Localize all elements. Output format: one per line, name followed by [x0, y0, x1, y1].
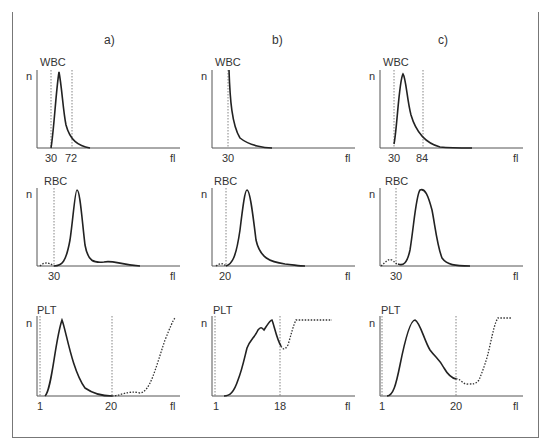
tick-label: 20: [105, 400, 117, 412]
dotted-curve: [456, 318, 512, 384]
plt-curve: [387, 320, 456, 396]
histogram-b-rbc: RBC n 20 fl: [201, 175, 355, 282]
tick-label: 20: [450, 400, 462, 412]
tick-label: 84: [416, 152, 428, 164]
title-rbc-a: RBC: [44, 175, 67, 187]
histogram-a-wbc: WBC n 30 72 fl: [26, 56, 180, 164]
title-plt-b: PLT: [213, 304, 233, 316]
tick-label: 30: [388, 152, 400, 164]
tick-label: 72: [65, 152, 77, 164]
rbc-curve: [398, 190, 470, 266]
wbc-curve: [229, 70, 272, 148]
histogram-b-plt: PLT n 1 18 fl: [201, 304, 355, 412]
histogram-c-rbc: RBC n 30 fl: [369, 175, 523, 282]
title-wbc-c: WBC: [383, 56, 409, 68]
histogram-c-wbc: WBC n 30 84 fl: [369, 56, 523, 164]
plt-curve: [224, 320, 281, 396]
rbc-curve: [54, 190, 140, 266]
axes: [212, 316, 355, 396]
y-label: n: [26, 317, 32, 329]
x-label: fl: [345, 152, 351, 164]
x-label: fl: [345, 400, 351, 412]
tick-label: 1: [379, 400, 385, 412]
y-label: n: [369, 70, 375, 82]
rbc-curve: [226, 190, 305, 266]
tick-label: 30: [48, 270, 60, 282]
dotted-curve: [112, 318, 175, 396]
x-label: fl: [170, 270, 176, 282]
histogram-figure: a) b) c) WBC n 30 72 fl RBC n 30 fl PLT …: [0, 0, 544, 440]
tick-label: 30: [45, 152, 57, 164]
axes: [37, 188, 180, 266]
axes: [37, 316, 180, 396]
y-label: n: [26, 70, 32, 82]
y-label: n: [26, 188, 32, 200]
tick-label: 20: [219, 270, 231, 282]
column-label-a: a): [104, 33, 115, 47]
histogram-c-plt: PLT n 1 20 fl: [369, 304, 523, 412]
tick-label: 1: [213, 400, 219, 412]
plt-curve: [45, 320, 112, 396]
axes: [212, 188, 355, 266]
column-label-b: b): [272, 33, 283, 47]
y-label: n: [201, 188, 207, 200]
title-plt-a: PLT: [37, 304, 57, 316]
histogram-b-wbc: WBC n 30 fl: [201, 56, 355, 164]
histogram-a-rbc: RBC n 30 fl: [26, 175, 180, 282]
title-plt-c: PLT: [381, 304, 401, 316]
dotted-curve: [281, 320, 332, 349]
x-label: fl: [513, 152, 519, 164]
x-label: fl: [170, 152, 176, 164]
y-label: n: [201, 317, 207, 329]
column-label-c: c): [438, 33, 448, 47]
y-label: n: [369, 317, 375, 329]
x-label: fl: [513, 400, 519, 412]
title-wbc-b: WBC: [215, 56, 241, 68]
title-rbc-c: RBC: [385, 175, 408, 187]
wbc-curve: [51, 72, 90, 148]
axes: [380, 188, 523, 266]
x-label: fl: [513, 270, 519, 282]
y-label: n: [201, 70, 207, 82]
x-label: fl: [170, 400, 176, 412]
y-label: n: [369, 188, 375, 200]
tick-label: 30: [222, 152, 234, 164]
title-rbc-b: RBC: [214, 175, 237, 187]
tick-label: 30: [390, 270, 402, 282]
histogram-a-plt: PLT n 1 20 fl: [26, 304, 180, 412]
axes: [212, 70, 355, 148]
wbc-curve: [394, 74, 472, 148]
title-wbc-a: WBC: [40, 56, 66, 68]
dotted-curve: [381, 259, 398, 266]
x-label: fl: [345, 270, 351, 282]
tick-label: 1: [37, 400, 43, 412]
tick-label: 18: [274, 400, 286, 412]
